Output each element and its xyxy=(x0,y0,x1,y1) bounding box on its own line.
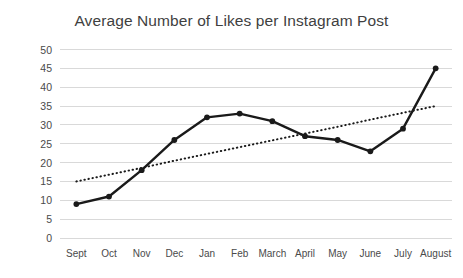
x-axis-tick-label: August xyxy=(420,248,451,259)
y-axis-tick-label: 50 xyxy=(24,44,52,56)
data-point-marker xyxy=(269,118,275,124)
data-point-marker xyxy=(400,126,406,132)
data-point-marker xyxy=(73,201,79,207)
data-point-marker xyxy=(237,111,243,117)
x-axis-tick-label: Oct xyxy=(101,248,117,259)
data-point-markers xyxy=(73,65,438,207)
x-axis-tick-label: Sept xyxy=(66,248,87,259)
y-axis-tick-label: 0 xyxy=(24,232,52,244)
data-point-marker xyxy=(433,65,439,71)
chart-container: Average Number of Likes per Instagram Po… xyxy=(0,0,463,278)
x-axis-tick-label: July xyxy=(394,248,412,259)
y-axis-tick-label: 5 xyxy=(24,213,52,225)
data-point-marker xyxy=(367,148,373,154)
x-axis-tick-label: Feb xyxy=(231,248,248,259)
x-axis-tick-label: Jan xyxy=(199,248,215,259)
x-axis-tick-label: March xyxy=(258,248,286,259)
y-axis-tick-label: 35 xyxy=(24,100,52,112)
data-point-marker xyxy=(139,167,145,173)
y-axis-tick-label: 45 xyxy=(24,62,52,74)
x-axis-tick-label: May xyxy=(328,248,347,259)
data-point-marker xyxy=(204,114,210,120)
line-chart-plot xyxy=(0,0,463,278)
data-point-marker xyxy=(335,137,341,143)
y-axis-tick-label: 40 xyxy=(24,81,52,93)
x-axis-tick-label: April xyxy=(295,248,315,259)
x-axis-tick-label: June xyxy=(359,248,381,259)
y-axis-tick-label: 20 xyxy=(24,157,52,169)
y-axis-tick-label: 30 xyxy=(24,119,52,131)
data-point-marker xyxy=(302,133,308,139)
data-point-marker xyxy=(171,137,177,143)
x-axis-tick-label: Nov xyxy=(133,248,151,259)
y-axis-tick-label: 10 xyxy=(24,194,52,206)
data-series-line xyxy=(76,68,435,204)
y-axis-tick-label: 15 xyxy=(24,175,52,187)
y-axis-tick-label: 25 xyxy=(24,138,52,150)
x-axis-tick-label: Dec xyxy=(165,248,183,259)
data-point-marker xyxy=(106,194,112,200)
